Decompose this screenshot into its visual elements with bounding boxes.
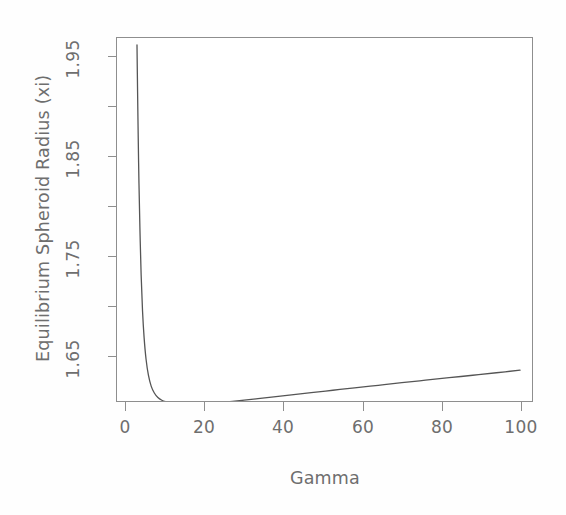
- x-tick-label-60: 60: [333, 417, 393, 437]
- x-tick-mark: [521, 402, 522, 411]
- x-tick-mark: [204, 402, 205, 411]
- data-series-line: [137, 45, 520, 401]
- y-axis-title: Equilibrium Spheroid Radius (xi): [33, 82, 53, 362]
- y-tick-mark: [108, 356, 116, 357]
- y-tick-mark: [108, 56, 116, 57]
- plot-area: [116, 37, 533, 402]
- x-tick-mark: [283, 402, 284, 411]
- x-tick-label-20: 20: [174, 417, 234, 437]
- x-tick-label-100: 100: [491, 417, 551, 437]
- y-tick-mark: [108, 156, 116, 157]
- y-tick-mark: [108, 106, 116, 107]
- y-tick-label-165: 1.65: [63, 336, 83, 382]
- y-tick-label-185: 1.85: [63, 136, 83, 182]
- x-axis-title: Gamma: [245, 468, 405, 488]
- y-tick-mark: [108, 306, 116, 307]
- y-tick-mark: [108, 256, 116, 257]
- y-tick-label-195: 1.95: [63, 36, 83, 82]
- chart-figure: Equilibrium Spheroid Radius (xi) 1.95 1.…: [0, 0, 566, 515]
- y-tick-label-175: 1.75: [63, 236, 83, 282]
- x-tick-mark: [363, 402, 364, 411]
- x-tick-label-0: 0: [95, 417, 155, 437]
- y-tick-mark: [108, 206, 116, 207]
- x-tick-mark: [125, 402, 126, 411]
- x-tick-mark: [442, 402, 443, 411]
- x-tick-label-40: 40: [253, 417, 313, 437]
- x-tick-label-80: 80: [412, 417, 472, 437]
- data-curve-svg: [117, 38, 532, 401]
